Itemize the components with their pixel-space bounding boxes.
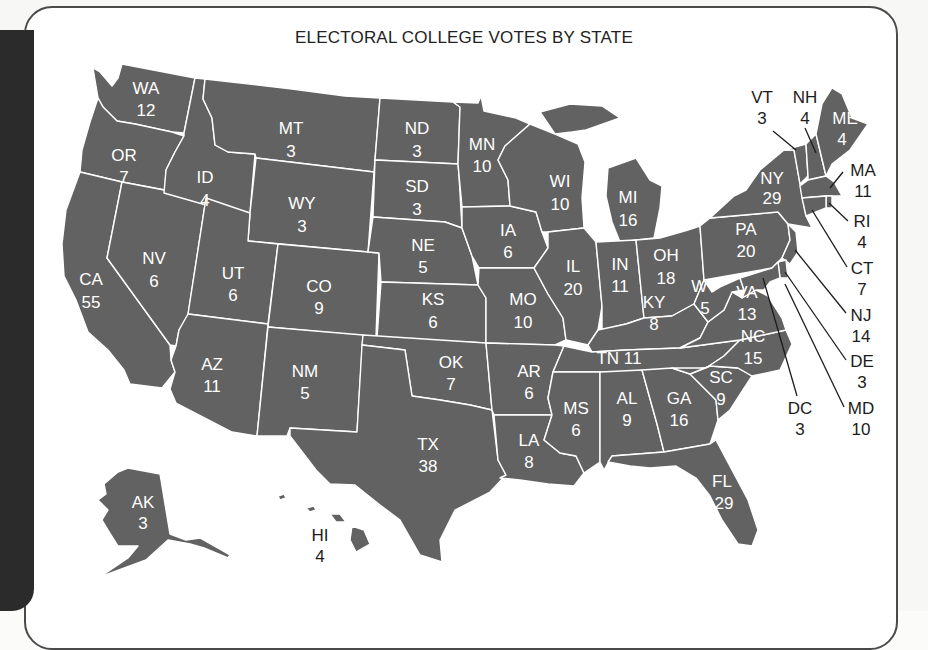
votes-MS: 6 — [571, 421, 580, 440]
votes-MA: 11 — [854, 182, 872, 201]
votes-RI: 4 — [857, 233, 866, 252]
votes-SC: 9 — [716, 390, 725, 409]
label-MO: MO — [509, 290, 536, 309]
leader-NJ — [795, 250, 846, 313]
votes-NC: 15 — [744, 349, 763, 368]
votes-IN: 11 — [611, 277, 629, 296]
label-NE: NE — [411, 236, 435, 255]
votes-NJ: 14 — [852, 327, 871, 346]
votes-AK: 3 — [138, 514, 147, 533]
votes-MN: 10 — [473, 157, 492, 176]
votes-NE: 5 — [418, 258, 427, 277]
label-TX: TX — [417, 435, 439, 454]
label-DC: DC — [788, 399, 813, 418]
label-CO: CO — [306, 277, 332, 296]
votes-VA: 13 — [738, 305, 757, 324]
votes-TX: 38 — [419, 457, 438, 476]
label-OH: OH — [653, 246, 679, 265]
votes-KY: 8 — [649, 315, 658, 334]
label-SD: SD — [405, 177, 429, 196]
votes-NY: 29 — [763, 189, 782, 208]
label-OR: OR — [111, 146, 137, 165]
leader-RI — [829, 203, 848, 221]
votes-LA: 8 — [524, 453, 533, 472]
leader-CT — [812, 210, 847, 267]
votes-ME: 4 — [837, 130, 846, 149]
votes-VT: 3 — [757, 109, 766, 128]
votes-AL: 9 — [622, 411, 631, 430]
label-WI: WI — [550, 172, 571, 191]
votes-MD: 10 — [852, 420, 871, 439]
label-RI: RI — [854, 212, 871, 231]
label-CT: CT — [851, 259, 874, 278]
label-VA: VA — [736, 283, 758, 302]
votes-WI: 10 — [551, 195, 570, 214]
label-TN: TN 11 — [596, 349, 641, 368]
votes-WY: 3 — [297, 217, 306, 236]
label-AL: AL — [617, 389, 638, 408]
votes-MO: 10 — [514, 313, 533, 332]
votes-CA: 55 — [82, 293, 101, 312]
votes-GA: 16 — [670, 411, 689, 430]
votes-UT: 6 — [228, 286, 237, 305]
label-IA: IA — [500, 221, 517, 240]
label-IN: IN — [612, 255, 629, 274]
label-MA: MA — [850, 161, 876, 180]
state-FL — [608, 440, 758, 546]
state-MA — [800, 176, 842, 198]
votes-PA: 20 — [737, 242, 756, 261]
votes-OH: 18 — [657, 269, 676, 288]
votes-WV: 5 — [700, 299, 709, 318]
label-WY: WY — [288, 194, 315, 213]
label-KS: KS — [422, 290, 445, 309]
label-AZ: AZ — [201, 355, 223, 374]
votes-NH: 4 — [800, 109, 809, 128]
label-NJ: NJ — [851, 306, 872, 325]
label-WV: WV — [691, 277, 719, 296]
label-ME: ME — [832, 109, 858, 128]
label-OK: OK — [439, 353, 464, 372]
votes-NM: 5 — [300, 384, 309, 403]
label-MI: MI — [619, 188, 638, 207]
label-UT: UT — [222, 264, 245, 283]
label-IL: IL — [566, 257, 580, 276]
votes-KS: 6 — [428, 313, 437, 332]
state-AZ — [170, 314, 268, 436]
label-ND: ND — [405, 119, 430, 138]
label-WA: WA — [133, 79, 160, 98]
votes-NV: 6 — [149, 272, 158, 291]
state-RI — [826, 196, 832, 208]
votes-MI: 16 — [619, 211, 638, 230]
label-CA: CA — [79, 270, 103, 289]
votes-DC: 3 — [795, 420, 804, 439]
votes-IL: 20 — [564, 280, 583, 299]
label-KY: KY — [643, 293, 666, 312]
label-MN: MN — [469, 135, 495, 154]
votes-ID: 4 — [200, 191, 209, 210]
votes-OR: 7 — [119, 168, 128, 187]
votes-CT: 7 — [857, 280, 866, 299]
label-SC: SC — [709, 368, 733, 387]
label-NH: NH — [793, 88, 818, 107]
label-MD: MD — [848, 399, 874, 418]
votes-DE: 3 — [857, 373, 866, 392]
votes-AZ: 11 — [203, 377, 221, 396]
votes-IA: 6 — [503, 243, 512, 262]
leader-VT — [773, 131, 796, 150]
votes-MT: 3 — [286, 142, 295, 161]
votes-CO: 9 — [314, 299, 323, 318]
state-NM — [257, 327, 363, 436]
votes-FL: 29 — [715, 494, 734, 513]
label-NY: NY — [760, 169, 784, 188]
label-NM: NM — [292, 362, 318, 381]
label-AR: AR — [517, 362, 541, 381]
label-VT: VT — [751, 88, 773, 107]
state-AK — [98, 468, 230, 577]
votes-ND: 3 — [412, 142, 421, 161]
votes-SD: 3 — [412, 200, 421, 219]
label-ID: ID — [197, 168, 214, 187]
label-GA: GA — [667, 389, 692, 408]
label-PA: PA — [735, 220, 757, 239]
label-NV: NV — [142, 249, 166, 268]
